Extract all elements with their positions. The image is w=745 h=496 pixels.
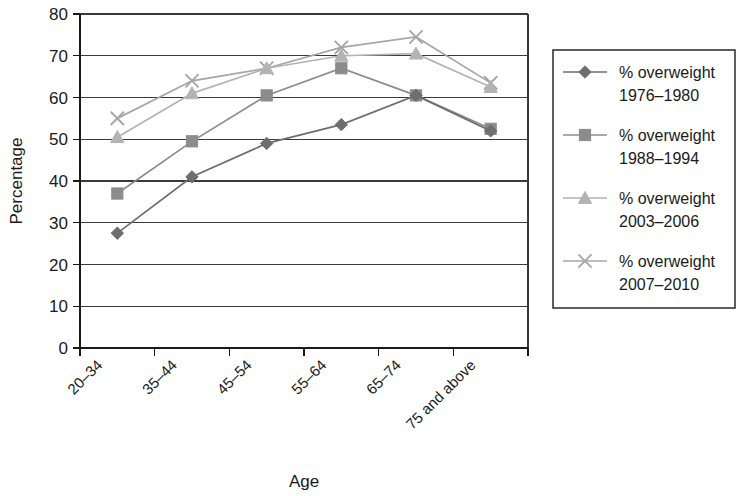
series-2-point-0 <box>111 131 124 143</box>
legend-label-1-line1: % overweight <box>619 127 716 144</box>
x-category-label-0: 20–34 <box>64 356 106 398</box>
series-2-point-1 <box>185 87 198 99</box>
series-3 <box>111 30 498 125</box>
x-category-label-1: 35–44 <box>139 356 181 398</box>
series-1-point-0 <box>112 188 123 199</box>
series-1-point-2 <box>261 90 272 101</box>
legend-label-2-line2: 2003–2006 <box>619 213 699 230</box>
series-0-point-3 <box>335 118 347 130</box>
x-category-labels: 20–3435–4445–5455–6465–7475 and above <box>64 356 479 432</box>
y-tick-label-0: 0 <box>59 339 68 358</box>
y-axis-title: Percentage <box>7 138 26 225</box>
y-tick-label-70: 70 <box>49 47 68 66</box>
series-3-point-0 <box>111 112 124 125</box>
series-0 <box>111 89 497 239</box>
series-line-3 <box>117 37 490 118</box>
legend: % overweight1976–1980% overweight1988–19… <box>553 50 735 308</box>
chart-container: 8070605040302010020–3435–4445–5455–6465–… <box>0 0 745 496</box>
legend-label-2-line1: % overweight <box>619 190 716 207</box>
legend-label-3-line1: % overweight <box>619 253 716 270</box>
y-tick-label-80: 80 <box>49 5 68 24</box>
x-category-label-2: 45–54 <box>213 356 255 398</box>
y-tick-label-40: 40 <box>49 172 68 191</box>
series-1-point-3 <box>336 63 347 74</box>
y-tick-label-30: 30 <box>49 214 68 233</box>
legend-label-0-line2: 1976–1980 <box>619 87 699 104</box>
series-line-2 <box>117 54 490 138</box>
legend-label-0-line1: % overweight <box>619 64 716 81</box>
y-tick-label-60: 60 <box>49 89 68 108</box>
series-1 <box>112 63 497 199</box>
legend-label-1-line2: 1988–1994 <box>619 150 699 167</box>
series-2 <box>111 47 498 143</box>
x-ticks-group <box>80 348 528 356</box>
legend-label-3-line2: 2007–2010 <box>619 276 699 293</box>
gridlines-group: 80706050403020100 <box>49 5 528 358</box>
x-category-label-4: 65–74 <box>363 356 405 398</box>
y-tick-label-20: 20 <box>49 256 68 275</box>
series-line-0 <box>117 95 490 233</box>
line-chart: 8070605040302010020–3435–4445–5455–6465–… <box>0 0 745 496</box>
legend-marker-1 <box>579 129 590 140</box>
x-axis-title: Age <box>289 472 319 491</box>
series-1-point-1 <box>186 136 197 147</box>
x-category-label-3: 55–64 <box>288 356 330 398</box>
y-tick-label-50: 50 <box>49 130 68 149</box>
y-tick-label-10: 10 <box>49 297 68 316</box>
x-category-label-5: 75 and above <box>402 356 478 432</box>
series-line-1 <box>117 68 490 193</box>
